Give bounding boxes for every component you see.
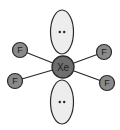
lone-pair-orbital xyxy=(51,10,74,54)
atom-label: F xyxy=(104,78,110,88)
central-atom: Xe xyxy=(52,56,74,78)
electron-dot xyxy=(63,31,65,33)
electron-dot xyxy=(63,101,65,103)
xef4-diagram: FFFF Xe xyxy=(0,0,120,130)
fluorine-atom: F xyxy=(8,74,23,89)
electron-dot xyxy=(59,101,61,103)
fluorine-atom: F xyxy=(13,43,28,58)
atom-label: Xe xyxy=(57,62,70,73)
atom-label: F xyxy=(12,76,18,86)
fluorine-atom: F xyxy=(97,45,112,60)
atom-label: F xyxy=(101,47,107,57)
atom-label: F xyxy=(17,45,23,55)
molecule-svg: FFFF Xe xyxy=(0,0,120,130)
lone-pair-orbital xyxy=(51,80,74,124)
electron-dot xyxy=(59,31,61,33)
fluorine-atom: F xyxy=(100,76,115,91)
